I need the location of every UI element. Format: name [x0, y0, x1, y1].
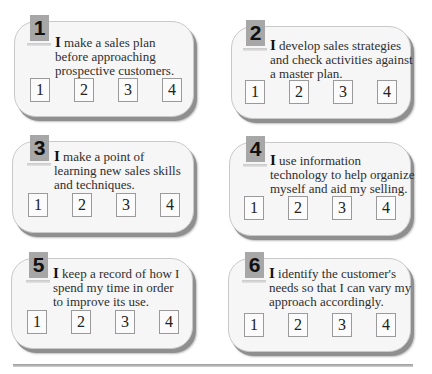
rating-option-3[interactable]: 3 — [333, 80, 353, 104]
badge-underline-1 — [27, 43, 51, 46]
rating-option-1[interactable]: 1 — [27, 310, 47, 334]
rating-option-3[interactable]: 3 — [332, 196, 352, 220]
badge-underline-2 — [243, 48, 267, 51]
bottom-divider-rule — [13, 364, 413, 367]
rating-option-4[interactable]: 4 — [376, 196, 396, 220]
rating-option-2[interactable]: 2 — [71, 310, 91, 334]
rating-option-1[interactable]: 1 — [28, 193, 48, 217]
rating-option-1[interactable]: 1 — [244, 196, 264, 220]
rating-option-3[interactable]: 3 — [115, 310, 135, 334]
rating-scale-1: 1 2 3 4 — [30, 78, 182, 102]
statement-text-5: I keep a record of how I spend my time i… — [53, 266, 179, 309]
rating-option-1[interactable]: 1 — [245, 80, 265, 104]
rating-scale-2: 1 2 3 4 — [245, 80, 397, 104]
badge-underline-4 — [243, 164, 267, 167]
statement-text-6: I identify the customer's needs so that … — [269, 266, 411, 309]
statement-text-1: I make a sales plan before approaching p… — [55, 35, 174, 78]
statement-text-3: I make a point of learning new sales ski… — [54, 149, 181, 192]
rating-option-4[interactable]: 4 — [159, 310, 179, 334]
item-number-badge-3: 3 — [30, 135, 49, 161]
rating-scale-5: 1 2 3 4 — [27, 310, 179, 334]
rating-option-2[interactable]: 2 — [288, 313, 308, 337]
statement-text-4: I use information technology to help org… — [270, 153, 415, 196]
rating-scale-3: 1 2 3 4 — [28, 193, 180, 217]
rating-option-3[interactable]: 3 — [116, 193, 136, 217]
rating-option-4[interactable]: 4 — [162, 78, 182, 102]
badge-underline-3 — [27, 163, 51, 166]
rating-scale-4: 1 2 3 4 — [244, 196, 396, 220]
rating-option-1[interactable]: 1 — [244, 313, 264, 337]
item-number-badge-4: 4 — [246, 136, 265, 162]
rating-option-2[interactable]: 2 — [289, 80, 309, 104]
rating-option-2[interactable]: 2 — [288, 196, 308, 220]
rating-option-1[interactable]: 1 — [30, 78, 50, 102]
item-number-badge-2: 2 — [246, 20, 265, 46]
item-number-badge-1: 1 — [30, 15, 49, 41]
rating-option-4[interactable]: 4 — [160, 193, 180, 217]
item-number-badge-5: 5 — [29, 252, 48, 278]
rating-option-3[interactable]: 3 — [332, 313, 352, 337]
rating-option-2[interactable]: 2 — [74, 78, 94, 102]
rating-option-2[interactable]: 2 — [72, 193, 92, 217]
badge-underline-6 — [242, 280, 266, 283]
rating-option-3[interactable]: 3 — [118, 78, 138, 102]
rating-option-4[interactable]: 4 — [377, 80, 397, 104]
badge-underline-5 — [26, 280, 50, 283]
statement-text-2: I develop sales strategies and check act… — [270, 38, 413, 81]
rating-option-4[interactable]: 4 — [376, 313, 396, 337]
item-number-badge-6: 6 — [245, 252, 264, 278]
rating-scale-6: 1 2 3 4 — [244, 313, 396, 337]
